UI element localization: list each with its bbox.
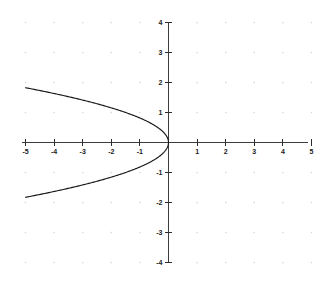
x-tick-label: 2 <box>224 148 228 155</box>
x-tick-label: -3 <box>80 148 86 155</box>
grid-dot <box>111 232 112 233</box>
grid-dot <box>282 232 283 233</box>
grid-dot <box>225 52 226 53</box>
grid-dot <box>82 22 83 23</box>
grid-dot <box>139 202 140 203</box>
grid-dot <box>196 232 197 233</box>
grid-dot <box>311 82 312 83</box>
y-tick-label: 3 <box>159 49 163 56</box>
grid-dot <box>225 262 226 263</box>
grid-dot <box>225 22 226 23</box>
grid-dot <box>311 172 312 173</box>
grid-dot <box>254 82 255 83</box>
grid-dot <box>111 22 112 23</box>
grid-dot <box>196 202 197 203</box>
grid-dot <box>25 22 26 23</box>
grid-dot <box>25 262 26 263</box>
grid-dot <box>53 202 54 203</box>
grid-dot <box>82 232 83 233</box>
grid-dot <box>225 82 226 83</box>
y-tick-label: 2 <box>159 79 163 86</box>
grid-dot <box>82 262 83 263</box>
grid-dot <box>139 112 140 113</box>
grid-dot <box>111 202 112 203</box>
grid-dot <box>53 52 54 53</box>
grid-dot <box>254 22 255 23</box>
x-tick-label: -4 <box>51 148 57 155</box>
grid-dot <box>53 172 54 173</box>
grid-dot <box>254 262 255 263</box>
grid-dot <box>282 52 283 53</box>
grid-dot <box>282 82 283 83</box>
grid-dot <box>111 52 112 53</box>
grid-dot <box>82 82 83 83</box>
grid-dot <box>254 232 255 233</box>
x-tick-label: 4 <box>281 148 285 155</box>
grid-dot <box>139 52 140 53</box>
grid-dot <box>254 112 255 113</box>
grid-dot <box>254 52 255 53</box>
grid-dot <box>254 202 255 203</box>
y-tick-label: 1 <box>159 109 163 116</box>
grid-dot <box>311 52 312 53</box>
grid-dot <box>139 262 140 263</box>
grid-dot <box>53 112 54 113</box>
grid-dot <box>196 22 197 23</box>
grid-dot <box>254 172 255 173</box>
x-tick-label: -2 <box>108 148 114 155</box>
x-tick-label: 5 <box>310 148 314 155</box>
x-tick-label: 3 <box>252 148 256 155</box>
grid-dot <box>25 112 26 113</box>
grid-dot <box>82 112 83 113</box>
grid-dot <box>53 232 54 233</box>
grid-dot <box>139 172 140 173</box>
grid-dot <box>25 82 26 83</box>
grid-dot <box>82 202 83 203</box>
grid-dot <box>225 172 226 173</box>
x-tick-label: -1 <box>137 148 143 155</box>
y-tick-label: -4 <box>156 259 162 266</box>
grid-dot <box>111 262 112 263</box>
grid-dot <box>311 232 312 233</box>
grid-dot <box>53 82 54 83</box>
grid-dot <box>225 232 226 233</box>
y-tick-label: -2 <box>156 199 162 206</box>
grid-dot <box>111 112 112 113</box>
grid-dot <box>53 262 54 263</box>
grid-dot <box>139 82 140 83</box>
grid-dot <box>25 232 26 233</box>
grid-dot <box>282 262 283 263</box>
grid-dot <box>25 52 26 53</box>
grid-dot <box>282 202 283 203</box>
y-tick-label: -3 <box>156 229 162 236</box>
grid-dot <box>225 202 226 203</box>
grid-dot <box>196 112 197 113</box>
grid-dot <box>53 22 54 23</box>
grid-dot <box>196 52 197 53</box>
grid-dot <box>25 172 26 173</box>
grid-dot <box>111 82 112 83</box>
grid-dot <box>311 112 312 113</box>
grid-dot <box>82 52 83 53</box>
grid-dot <box>311 22 312 23</box>
y-tick-label: -1 <box>156 169 162 176</box>
grid-dot <box>311 202 312 203</box>
x-tick-label: 1 <box>195 148 199 155</box>
grid-dot <box>282 112 283 113</box>
grid-dot <box>25 202 26 203</box>
y-tick-label: 4 <box>159 19 163 26</box>
grid-dot <box>111 172 112 173</box>
grid-dot <box>196 262 197 263</box>
grid-dot <box>282 172 283 173</box>
coordinate-plane-chart: -5-4-3-2-112345-4-3-2-11234 <box>0 0 325 286</box>
grid-dot <box>196 172 197 173</box>
grid-dot <box>311 262 312 263</box>
grid-dot <box>196 82 197 83</box>
parabola-plot-figure: -5-4-3-2-112345-4-3-2-11234 <box>0 0 325 286</box>
grid-dot <box>139 22 140 23</box>
grid-dot <box>225 112 226 113</box>
x-tick-label: -5 <box>22 148 28 155</box>
grid-dot <box>282 22 283 23</box>
grid-dot <box>82 172 83 173</box>
grid-dot <box>139 232 140 233</box>
